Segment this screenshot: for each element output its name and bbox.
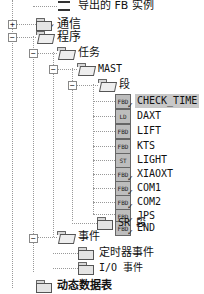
tree-line	[53, 268, 78, 269]
tree-line	[93, 146, 115, 147]
expand-icon[interactable]: +	[8, 20, 17, 29]
folder-icon	[78, 247, 94, 259]
node-label: 导出的 FB 实例	[76, 0, 156, 13]
node-label: CHECK_TIME	[135, 94, 199, 108]
node-label: 段	[117, 78, 132, 92]
fbd-section-icon: FBD✓	[115, 94, 131, 109]
tree-node-daxt[interactable]: LD DAXT	[115, 108, 163, 124]
tree-line	[93, 160, 115, 161]
ld-section-icon: LD	[115, 109, 131, 124]
tree-line	[37, 237, 57, 238]
node-label: LIGHT	[135, 153, 169, 167]
node-label: 定时器事件	[97, 246, 156, 260]
node-label: 事件	[76, 230, 102, 244]
tree-line	[12, 0, 13, 288]
fbd-section-icon: FBD	[115, 124, 131, 139]
node-label: COM1	[135, 181, 163, 195]
folder-open-icon	[57, 231, 73, 243]
tree-line	[93, 116, 115, 117]
tree-node-mast[interactable]: ✓ MAST	[77, 61, 124, 77]
tree-node-program[interactable]: ✓ 程序	[36, 29, 83, 45]
collapse-icon[interactable]: −	[49, 65, 58, 74]
tree-node-timer-events[interactable]: 定时器事件	[78, 245, 156, 261]
tree-node-events[interactable]: 事件	[57, 229, 102, 245]
folder-open-icon: ✓	[77, 63, 93, 75]
tree-line	[16, 24, 36, 25]
tree-line	[33, 6, 57, 7]
collapse-icon[interactable]: −	[68, 81, 77, 90]
tree-node-io-events[interactable]: I/O 事件	[78, 260, 145, 276]
tree-line	[37, 53, 57, 54]
node-label: XIAOXT	[135, 167, 175, 181]
tree-node-fb-instances[interactable]: 导出的 FB 实例	[58, 0, 156, 14]
node-label: 任务	[76, 46, 102, 60]
node-label: KTS	[135, 139, 157, 153]
tree-line	[72, 68, 73, 221]
tree-line	[72, 223, 97, 224]
node-label: LIFT	[135, 124, 163, 138]
tree-line	[93, 131, 115, 132]
tree-line	[16, 37, 36, 38]
tree-line	[53, 52, 54, 237]
tree-node-lift[interactable]: FBD LIFT	[115, 123, 163, 139]
node-label: I/O 事件	[97, 261, 145, 275]
node-label: 动态数据表	[55, 279, 114, 293]
folder-open-icon: ✓	[57, 47, 73, 59]
folder-open-icon: ✓	[36, 31, 52, 43]
tree-line	[93, 188, 115, 189]
node-label: 程序	[55, 30, 83, 44]
tree-node-check-time[interactable]: FBD✓ CHECK_TIME	[115, 93, 199, 109]
instance-icon	[58, 1, 70, 11]
collapse-icon[interactable]: −	[29, 49, 38, 58]
folder-icon	[97, 217, 113, 229]
tree-line	[93, 202, 115, 203]
tree-line	[53, 253, 78, 254]
folder-open-icon: ✓	[98, 79, 114, 91]
folder-icon	[36, 280, 52, 292]
collapse-icon[interactable]: −	[29, 234, 38, 243]
tree-line	[76, 85, 98, 86]
node-label: COM2	[135, 195, 163, 209]
tree-node-tasks[interactable]: ✓ 任务	[57, 45, 102, 61]
tree-node-dynamic-tables[interactable]: 动态数据表	[36, 278, 114, 294]
folder-icon	[78, 262, 94, 274]
node-label: MAST	[96, 62, 124, 76]
tree-node-sr-sections[interactable]: SR 段	[97, 215, 148, 231]
node-label: DAXT	[135, 109, 163, 123]
tree-line	[93, 84, 94, 214]
collapse-icon[interactable]: −	[8, 33, 17, 42]
node-label: SR 段	[116, 216, 148, 230]
tree-line	[57, 69, 77, 70]
tree-node-sections[interactable]: ✓ 段	[98, 77, 132, 93]
tree-line	[93, 174, 115, 175]
tree-line	[93, 101, 115, 102]
